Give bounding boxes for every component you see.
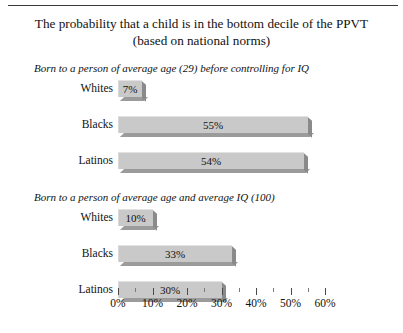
x-axis: 0%10%20%30%40%50%60% [0, 288, 403, 328]
panel-subtitle: Born to a person of average age (29) bef… [34, 62, 309, 74]
top-divider-rule [8, 5, 398, 6]
bar-row-label-blacks: Blacks [82, 247, 113, 259]
chart-title: The probability that a child is in the b… [0, 15, 403, 49]
bar-side-face [308, 117, 312, 137]
bar-front-face [118, 245, 232, 262]
x-axis-tick-major [153, 288, 154, 295]
bar-latinos: 54% [118, 152, 304, 173]
x-axis-tick-minor [239, 288, 240, 292]
bar-front-face [118, 209, 153, 226]
bar-blacks: 33% [118, 245, 232, 266]
panel-bar-rows: Whites 7% Blacks 55% Latinos [0, 78, 403, 186]
x-axis-tick-major [256, 288, 257, 295]
bar-whites: 7% [118, 80, 142, 101]
chart-title-line-1: The probability that a child is in the b… [0, 15, 403, 32]
x-axis-tick-major [222, 288, 223, 295]
bar-front-face [118, 80, 142, 97]
bar-bottom-face [120, 169, 310, 173]
bar-side-face [304, 153, 308, 173]
bar-bottom-face [120, 133, 314, 137]
bar-row-label-latinos: Latinos [79, 154, 114, 166]
bar-bottom-face [120, 262, 238, 266]
x-axis-tick-minor [135, 288, 136, 292]
x-axis-tick-major [291, 288, 292, 295]
x-axis-tick-minor [308, 288, 309, 292]
bar-row: Whites 7% [0, 78, 403, 114]
chart-title-line-2: (based on national norms) [0, 32, 403, 49]
bar-row: Whites 10% [0, 207, 403, 243]
bar-row-label-whites: Whites [80, 82, 113, 94]
x-axis-tick-major [187, 288, 188, 295]
bar-whites: 10% [118, 209, 153, 230]
x-axis-tick-minor [273, 288, 274, 292]
chart-figure: The probability that a child is in the b… [0, 0, 403, 333]
x-axis-tick-minor [204, 288, 205, 292]
x-axis-tick-major [118, 288, 119, 295]
bar-front-face [118, 116, 308, 133]
bar-side-face [232, 246, 236, 266]
x-axis-tick-label: 60% [305, 297, 345, 309]
bar-side-face [142, 81, 146, 101]
bar-row-label-blacks: Blacks [82, 118, 113, 130]
bar-front-face [118, 152, 304, 169]
bar-row: Latinos 54% [0, 150, 403, 186]
bar-row: Blacks 55% [0, 114, 403, 150]
x-axis-tick-minor [170, 288, 171, 292]
x-axis-tick-major [325, 288, 326, 295]
bar-row: Blacks 33% [0, 243, 403, 279]
bar-blacks: 55% [118, 116, 308, 137]
panel-subtitle: Born to a person of average age and aver… [34, 191, 275, 203]
bar-side-face [153, 210, 157, 230]
bar-row-label-whites: Whites [80, 211, 113, 223]
